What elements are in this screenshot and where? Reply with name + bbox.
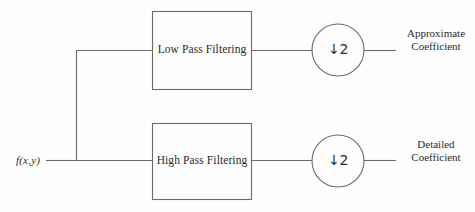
detailed-coefficient-label: Detailed Coefficient <box>396 138 475 164</box>
downsampler-label-detailed: ↓2 <box>311 152 365 169</box>
high-pass-filter-label: High Pass Filtering <box>152 154 252 168</box>
low-pass-filter-label: Low Pass Filtering <box>152 43 252 57</box>
diagram-canvas: f(x,y) Low Pass Filtering High Pass Filt… <box>0 0 475 212</box>
approximate-coefficient-line1: Approximate <box>396 27 475 40</box>
detailed-coefficient-line1: Detailed <box>396 138 475 151</box>
approximate-coefficient-line2: Coefficient <box>396 40 475 53</box>
detailed-coefficient-line2: Coefficient <box>396 151 475 164</box>
downsampler-label-approximate: ↓2 <box>311 41 365 58</box>
approximate-coefficient-label: Approximate Coefficient <box>396 27 475 53</box>
input-signal-label: f(x,y) <box>16 154 40 167</box>
